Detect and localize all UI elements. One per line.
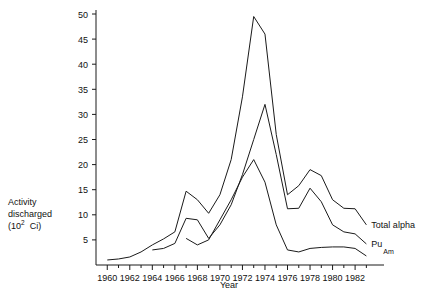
x-axis-title-text: Year (220, 280, 238, 290)
y-axis-title: Activity discharged (102 Ci) (8, 196, 96, 232)
series-line-total-alpha (107, 17, 366, 260)
x-axis-title: Year (0, 280, 440, 290)
series-label-am: Am (383, 248, 394, 255)
y-axis-units-prefix: (10 (8, 221, 21, 231)
activity-discharged-line-chart: Activity discharged (102 Ci) Year 510152… (0, 0, 440, 298)
y-axis-units-suffix: Ci) (30, 221, 42, 231)
y-axis-tick-label: 5 (83, 235, 88, 245)
y-axis-tick-label: 45 (78, 35, 88, 45)
series-labels: Total alphaPuAm (371, 220, 415, 255)
y-axis-title-units: (102 Ci) (8, 220, 96, 232)
y-axis-tick-label: 15 (78, 185, 88, 195)
series-line-pu (152, 104, 366, 250)
y-axis-units-exponent: 2 (21, 219, 25, 226)
y-axis-tick-label: 40 (78, 60, 88, 70)
data-curves (107, 17, 366, 260)
y-axis-tick-label: 30 (78, 110, 88, 120)
plot-area: 5101520253035404550 19601962196419661968… (0, 0, 440, 298)
y-axis-tick-label: 50 (78, 10, 88, 20)
series-line-am (186, 160, 366, 256)
y-axis-tick-label: 35 (78, 85, 88, 95)
y-axis-tick-label: 20 (78, 160, 88, 170)
series-label-pu: Pu (371, 239, 382, 249)
y-axis-tick-label: 25 (78, 135, 88, 145)
y-axis-title-line-1: Activity (8, 196, 96, 208)
series-label-total-alpha: Total alpha (371, 220, 415, 230)
